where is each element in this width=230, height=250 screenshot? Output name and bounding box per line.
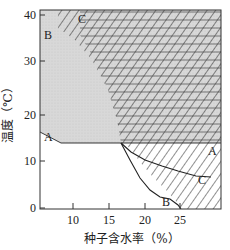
y-tick-label: 30 [24,54,36,68]
x-tick-label: 15 [103,213,115,227]
chart: 0 10 20 30 40 10 15 20 25 种子含水率（%） 温度（℃）… [0,0,230,250]
label-c-top: C [78,12,86,26]
x-tick-label: 25 [174,213,186,227]
y-tick-label: 40 [24,8,36,22]
x-tick-label: 20 [139,213,151,227]
label-b-bottom: B [162,195,170,209]
label-c-right: C [198,173,206,187]
x-axis-title: 种子含水率（%） [84,231,179,246]
y-tick-label: 10 [24,154,36,168]
x-tick-label: 10 [67,213,79,227]
y-tick-label: 0 [30,201,36,215]
y-tick-label: 20 [24,108,36,122]
plot-area [40,10,221,209]
label-a-left: A [44,130,53,144]
label-a-right: A [208,144,217,158]
y-axis-title: 温度（℃） [0,81,15,142]
label-b-top: B [44,28,52,42]
